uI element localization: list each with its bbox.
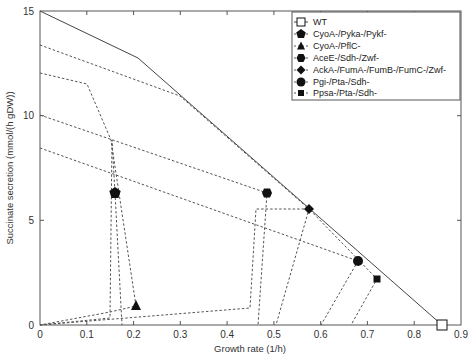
svg-text:CyoA-/Pyka-/Pykf-: CyoA-/Pyka-/Pykf- <box>313 29 387 39</box>
y-tick-0: 0 <box>28 320 34 331</box>
y-axis-label: Succinate secretion (mmol/(h gDW)) <box>4 91 15 244</box>
legend-circle-icon <box>297 78 306 87</box>
y-tick-labels: 0 5 10 15 <box>23 6 35 331</box>
succinate-production-envelope-chart: 0 0.1 0.2 0.3 0.4 0.5 0.6 0.7 0.8 0.9 0 … <box>0 0 474 359</box>
legend-square-icon <box>298 90 304 96</box>
svg-text:AckA-/FumA-/FumB-/FumC-/Zwf-: AckA-/FumA-/FumB-/FumC-/Zwf- <box>313 65 446 75</box>
y-tick-5: 5 <box>28 215 34 226</box>
marker-circle <box>353 256 363 266</box>
x-tick-labels: 0 0.1 0.2 0.3 0.4 0.5 0.6 0.7 0.8 0.9 <box>37 329 468 340</box>
x-tick-0: 0 <box>37 329 43 340</box>
svg-text:Pgi-/Pta-/Sdh-: Pgi-/Pta-/Sdh- <box>313 77 370 87</box>
x-tick-2: 0.2 <box>127 329 141 340</box>
marker-wt-open-square <box>437 320 447 330</box>
svg-text:Ppsa-/Pta-/Sdh-: Ppsa-/Pta-/Sdh- <box>313 88 377 98</box>
x-tick-7: 0.7 <box>360 329 374 340</box>
x-tick-4: 0.4 <box>220 329 234 340</box>
y-tick-10: 10 <box>23 110 35 121</box>
y-tick-15: 15 <box>23 6 35 17</box>
x-axis-label: Growth rate (1/h) <box>214 343 286 354</box>
marker-square <box>374 276 381 283</box>
legend-open-square-icon <box>297 18 305 26</box>
x-tick-3: 0.3 <box>173 329 187 340</box>
x-tick-5: 0.5 <box>267 329 281 340</box>
marker-hexagon <box>262 189 272 198</box>
legend: WT CyoA-/Pyka-/Pykf- CyoA-/PflC- AceE-/S… <box>292 12 460 100</box>
x-tick-1: 0.1 <box>80 329 94 340</box>
x-tick-8: 0.8 <box>407 329 421 340</box>
legend-item-acka: AckA-/FumA-/FumB-/FumC-/Zwf- <box>294 65 446 75</box>
x-tick-9: 0.9 <box>454 329 468 340</box>
svg-text:AceE-/Sdh-/Zwf-: AceE-/Sdh-/Zwf- <box>313 53 379 63</box>
svg-text:CyoA-/PflC-: CyoA-/PflC- <box>313 41 361 51</box>
x-tick-6: 0.6 <box>314 329 328 340</box>
svg-text:WT: WT <box>313 17 327 27</box>
